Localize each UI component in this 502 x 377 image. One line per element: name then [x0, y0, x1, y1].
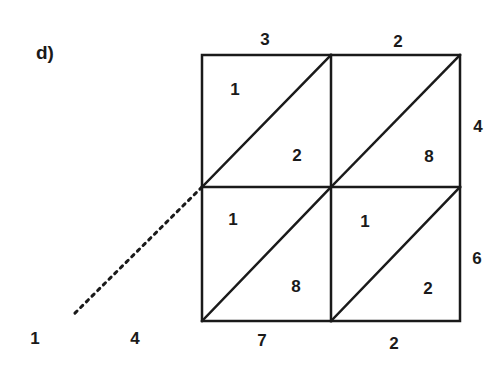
problem-label: d) — [36, 43, 54, 62]
diagonal-r0c1 — [331, 55, 460, 187]
answer-digit-2: 4 — [130, 330, 139, 347]
answer-digit-1: 1 — [30, 330, 39, 347]
cell-r1c0-ones: 8 — [291, 278, 300, 295]
cell-r1c0-tens: 1 — [228, 211, 237, 228]
cell-r1c1-ones: 2 — [423, 280, 432, 297]
multiplicand-digit-2: 2 — [393, 33, 402, 50]
multiplicand-digit-1: 3 — [260, 31, 269, 48]
lattice-grid — [0, 0, 502, 377]
answer-digit-3: 7 — [257, 332, 266, 349]
cell-r1c1-tens: 1 — [360, 213, 369, 230]
answer-digit-4: 2 — [389, 335, 398, 352]
diagonal-r1c1 — [331, 187, 460, 321]
dotted-extension-line — [72, 187, 202, 316]
cell-r0c0-ones: 2 — [292, 147, 301, 164]
cell-r0c0-tens: 1 — [230, 81, 239, 98]
multiplier-digit-1: 4 — [473, 118, 482, 135]
diagonal-r0c0 — [202, 55, 331, 187]
diagonal-r1c0 — [202, 187, 331, 321]
cell-r0c1-ones: 8 — [424, 148, 433, 165]
multiplier-digit-2: 6 — [472, 250, 481, 267]
